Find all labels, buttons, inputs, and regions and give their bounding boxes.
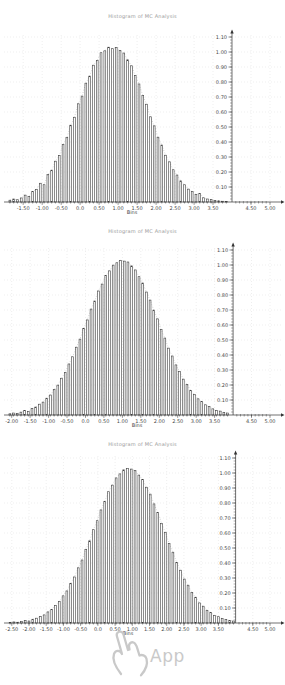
x-axis-label: Bins <box>121 209 143 215</box>
histogram-bar <box>68 364 70 415</box>
histogram-bar <box>61 378 63 415</box>
distribution-envelope <box>10 469 233 623</box>
x-tick-label: 0.50 <box>94 205 105 211</box>
y-tick-label: 0.40 <box>217 352 228 358</box>
histogram-bar <box>161 523 163 623</box>
y-tick-label: 1.00 <box>216 49 227 55</box>
histogram-bar <box>51 170 53 202</box>
histogram-bar <box>212 409 214 415</box>
charts-canvas: -1.50-1.00-0.500.00.501.001.502.002.503.… <box>0 0 285 685</box>
histogram-bar <box>28 196 30 202</box>
histogram-bar <box>134 270 136 415</box>
histogram-bar <box>161 145 163 202</box>
histogram-bar <box>153 504 155 623</box>
histogram-bar <box>96 521 98 623</box>
x-axis-arrow <box>281 413 285 417</box>
x-tick-label: -1.00 <box>57 626 70 632</box>
histogram-bar <box>72 357 74 415</box>
histogram-bar <box>157 512 159 623</box>
histogram-bar <box>184 185 186 202</box>
histogram-bar <box>182 379 184 415</box>
histogram-bar <box>94 301 96 415</box>
histogram-bar <box>203 198 205 202</box>
y-tick-label: 1.10 <box>216 34 227 40</box>
histogram-bar <box>214 615 216 623</box>
x-tick-label: 0.50 <box>98 418 109 424</box>
pointing-hand-icon <box>108 616 156 678</box>
x-tick-label: 4.50 <box>245 205 256 211</box>
histogram-bar <box>186 384 188 415</box>
y-tick-label: 0.20 <box>219 590 230 596</box>
x-tick-label: -0.50 <box>55 205 68 211</box>
histogram-bar <box>74 117 76 202</box>
y-tick-label: 0.80 <box>217 292 228 298</box>
histogram-bar <box>20 198 22 202</box>
x-tick-label: 0.0 <box>94 626 102 632</box>
histogram-bar <box>199 603 201 623</box>
histogram-bar <box>108 492 110 623</box>
y-tick-label: 0.60 <box>216 109 227 115</box>
y-tick-label: 0.70 <box>217 307 228 313</box>
x-tick-label: 3.00 <box>191 418 202 424</box>
histogram-bar <box>31 408 33 415</box>
histogram-bar <box>134 76 136 202</box>
histogram-bar <box>187 189 189 202</box>
y-axis-arrow <box>234 451 237 455</box>
histogram-bar <box>149 117 151 202</box>
bars-group <box>9 469 234 625</box>
y-tick-label: 1.10 <box>219 455 230 461</box>
histogram-bar <box>58 156 60 202</box>
histogram-bar <box>81 560 83 623</box>
x-tick-label: -1.00 <box>42 418 55 424</box>
histogram-bar <box>223 412 225 415</box>
y-tick-label: 0.90 <box>219 485 230 491</box>
histogram-bar <box>20 412 22 415</box>
histogram-bar <box>13 199 15 202</box>
x-tick-label: 2.00 <box>151 205 162 211</box>
histogram-bar <box>58 602 60 623</box>
histogram-bar <box>104 51 106 202</box>
histogram-bar <box>172 170 174 202</box>
x-tick-label: 3.50 <box>213 626 224 632</box>
histogram-bar <box>202 606 204 623</box>
histogram-bar <box>47 612 49 623</box>
histogram-bar <box>171 356 173 415</box>
y-tick-label: 0.30 <box>216 154 227 160</box>
histogram-bar <box>85 83 87 202</box>
y-tick-label: 1.00 <box>217 262 228 268</box>
chart-title: Histogram of MC Analysis <box>0 441 285 447</box>
histogram-bar <box>115 47 117 202</box>
histogram-bar <box>191 192 193 202</box>
histogram-bar <box>93 65 95 202</box>
histogram-bar <box>50 395 52 415</box>
histogram-bar <box>176 175 178 202</box>
histogram-bar <box>51 610 53 624</box>
histogram-bar <box>35 407 37 415</box>
histogram-bar <box>190 390 192 415</box>
y-tick-label: 0.30 <box>219 575 230 581</box>
histogram-bar <box>206 610 208 623</box>
x-tick-label: -1.50 <box>40 626 53 632</box>
histogram-bar <box>100 53 102 202</box>
histogram-bar <box>195 195 197 203</box>
y-axis <box>230 246 234 415</box>
histogram-bar <box>39 183 41 202</box>
histogram-bar <box>168 348 170 415</box>
histogram-bar <box>142 479 144 623</box>
y-tick-label: 0.90 <box>216 64 227 70</box>
x-tick-label: -1.00 <box>36 205 49 211</box>
histogram-bar <box>165 155 167 202</box>
y-tick-label: 0.50 <box>217 337 228 343</box>
histogram-chart-2: -2.00-1.50-1.00-0.500.00.501.001.502.002… <box>4 243 285 424</box>
histogram-bar <box>205 405 207 415</box>
histogram-bar <box>210 200 212 202</box>
histogram-bar <box>98 291 100 415</box>
y-axis-arrow <box>231 243 234 247</box>
histogram-bar <box>89 541 91 623</box>
histogram-bar <box>24 411 26 415</box>
histogram-bar <box>153 310 155 415</box>
histogram-bar <box>219 411 221 415</box>
histogram-bar <box>86 320 88 415</box>
histogram-bar <box>179 372 181 415</box>
y-axis <box>232 454 236 623</box>
